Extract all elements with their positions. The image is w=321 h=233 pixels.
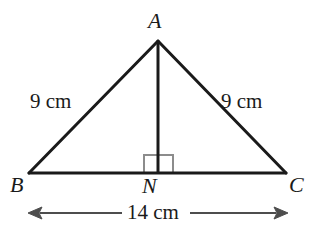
vertex-label-c: C	[289, 174, 304, 196]
vertex-label-b: B	[10, 174, 23, 196]
measurement-label-base: 14 cm	[122, 202, 184, 223]
dimension-arrowhead-right	[274, 207, 288, 219]
vertex-label-n: N	[142, 175, 157, 197]
vertex-label-a: A	[148, 10, 161, 32]
measurement-label-left-side: 9 cm	[30, 91, 71, 112]
triangle-figure-svg	[0, 0, 321, 233]
dimension-arrowhead-left	[28, 207, 42, 219]
geometry-diagram: A B C N 9 cm 9 cm 14 cm	[0, 0, 321, 233]
measurement-label-right-side: 9 cm	[221, 91, 262, 112]
